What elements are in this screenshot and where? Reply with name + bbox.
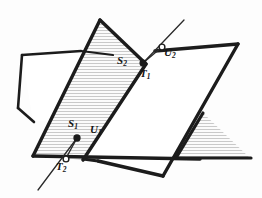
label-U1-subscript: 1 — [98, 128, 102, 137]
label-T1-letter: T — [140, 67, 147, 79]
point-marker-T1-S2[interactable] — [140, 60, 146, 66]
label-U2: U2 — [164, 47, 176, 58]
label-U1-letter: U — [90, 123, 98, 135]
label-S2: S2 — [117, 55, 127, 66]
geometry-figure: S2 T1 U2 S1 U1 T2 — [0, 0, 262, 198]
plane-fills — [22, 20, 250, 176]
label-S1: S1 — [68, 118, 78, 129]
label-U1: U1 — [90, 124, 102, 135]
label-T1-subscript: 1 — [147, 72, 151, 81]
geometry-canvas — [0, 0, 262, 198]
label-S2-subscript: 2 — [123, 59, 127, 68]
label-U2-subscript: 2 — [172, 51, 176, 60]
left-plane-left-edge — [18, 55, 22, 108]
label-S1-subscript: 1 — [74, 122, 78, 131]
label-T2-subscript: 2 — [63, 165, 67, 174]
label-T2-letter: T — [56, 160, 63, 172]
label-U2-letter: U — [164, 46, 172, 58]
point-marker-S1-U1[interactable] — [74, 135, 80, 141]
label-T2: T2 — [56, 161, 66, 172]
label-T1: T1 — [140, 68, 150, 79]
